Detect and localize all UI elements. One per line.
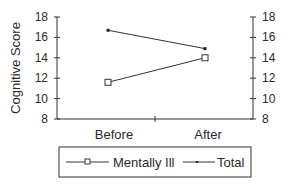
y-axis-title: Cognitive Score bbox=[8, 22, 23, 114]
right-tick-label: 12 bbox=[262, 71, 276, 85]
filled-square-marker-icon bbox=[107, 29, 110, 32]
line-chart: Cognitive Score 81012141618 81012141618 … bbox=[0, 0, 290, 191]
open-square-marker-icon bbox=[85, 159, 90, 164]
legend-label-mentally-ill: Mentally Ill bbox=[113, 155, 175, 170]
left-tick-label: 10 bbox=[35, 92, 49, 106]
x-category-before: Before bbox=[95, 127, 133, 142]
legend-label-total: Total bbox=[217, 155, 245, 170]
filled-square-marker-icon bbox=[196, 161, 198, 163]
open-square-marker-icon bbox=[202, 55, 208, 61]
left-tick-label: 16 bbox=[35, 30, 49, 44]
left-tick-label: 14 bbox=[35, 51, 49, 65]
left-tick-label: 18 bbox=[35, 10, 49, 24]
series-layer bbox=[105, 29, 208, 86]
right-tick-label: 10 bbox=[262, 92, 276, 106]
left-y-axis: 81012141618 bbox=[35, 10, 60, 126]
left-tick-label: 12 bbox=[35, 71, 49, 85]
right-tick-label: 18 bbox=[262, 10, 276, 24]
left-tick-label: 8 bbox=[41, 112, 48, 126]
x-category-after: After bbox=[194, 127, 222, 142]
right-tick-label: 14 bbox=[262, 51, 276, 65]
right-tick-label: 8 bbox=[262, 112, 269, 126]
x-axis: Before After bbox=[57, 116, 253, 142]
legend: Mentally Ill Total bbox=[59, 147, 251, 177]
series-mentally-ill bbox=[105, 55, 208, 85]
open-square-marker-icon bbox=[105, 79, 111, 85]
filled-square-marker-icon bbox=[204, 47, 207, 50]
right-tick-label: 16 bbox=[262, 30, 276, 44]
series-total bbox=[107, 29, 207, 50]
right-y-axis: 81012141618 bbox=[250, 10, 276, 126]
